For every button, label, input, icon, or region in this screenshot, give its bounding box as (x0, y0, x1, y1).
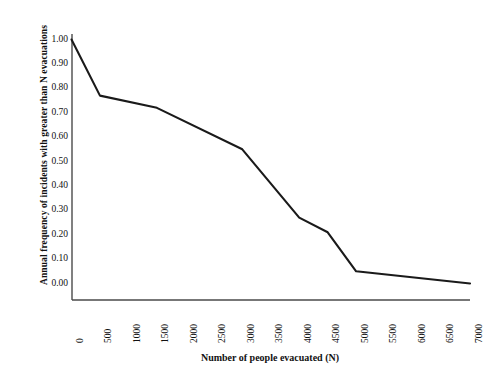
data-series-line (72, 40, 471, 284)
plot-area (0, 0, 497, 378)
chart-figure: Annual frequency of incidents with great… (0, 0, 497, 378)
